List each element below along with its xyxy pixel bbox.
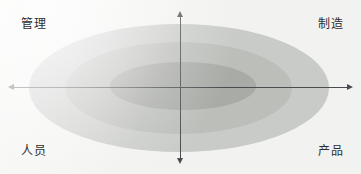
ellipse-inner-core: [110, 62, 256, 110]
quadrant-label-top-right: 制造: [318, 17, 343, 31]
diagram-canvas: 管理 制造 人员 产品: [0, 0, 361, 174]
vertical-axis-line: [180, 15, 181, 160]
axis-arrow-up-icon: [177, 11, 183, 17]
axis-arrow-right-icon: [347, 84, 353, 90]
quadrant-label-top-left: 管理: [21, 17, 46, 31]
quadrant-label-bottom-left: 人员: [21, 144, 46, 158]
axis-arrow-down-icon: [177, 158, 183, 164]
quadrant-label-bottom-right: 产品: [318, 144, 343, 158]
axis-arrow-left-icon: [8, 84, 14, 90]
horizontal-axis-line: [13, 87, 349, 88]
